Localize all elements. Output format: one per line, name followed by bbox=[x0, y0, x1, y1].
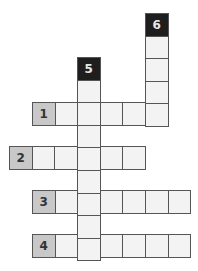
answer-cell[interactable] bbox=[54, 146, 78, 170]
answer-cell[interactable] bbox=[145, 234, 169, 258]
answer-cell[interactable] bbox=[145, 103, 169, 127]
answer-cell[interactable] bbox=[77, 102, 101, 126]
answer-cell[interactable] bbox=[122, 234, 146, 258]
answer-cell[interactable] bbox=[145, 190, 169, 214]
clue-number: 5 bbox=[78, 58, 100, 80]
answer-cell[interactable] bbox=[77, 125, 101, 149]
answer-cell[interactable] bbox=[100, 234, 124, 258]
answer-cell[interactable] bbox=[77, 215, 101, 239]
answer-cell[interactable] bbox=[32, 146, 56, 170]
answer-cell[interactable] bbox=[122, 102, 146, 126]
clue-number: 6 bbox=[146, 14, 168, 36]
answer-cell[interactable] bbox=[100, 190, 124, 214]
clue-label-down-6: 6 bbox=[145, 13, 169, 37]
clue-label-across-2: 2 bbox=[9, 146, 33, 170]
answer-cell[interactable] bbox=[77, 193, 101, 217]
clue-label-across-3: 3 bbox=[32, 190, 56, 214]
clue-label-down-5: 5 bbox=[77, 57, 101, 81]
answer-cell[interactable] bbox=[55, 234, 79, 258]
answer-cell[interactable] bbox=[55, 190, 79, 214]
answer-cell[interactable] bbox=[77, 170, 101, 194]
answer-cell[interactable] bbox=[122, 146, 146, 170]
answer-cell[interactable] bbox=[122, 190, 146, 214]
clue-number: 2 bbox=[10, 147, 32, 169]
answer-cell[interactable] bbox=[100, 102, 124, 126]
answer-cell[interactable] bbox=[145, 36, 169, 60]
answer-cell[interactable] bbox=[168, 190, 192, 214]
clue-label-across-4: 4 bbox=[32, 234, 56, 258]
answer-cell[interactable] bbox=[145, 81, 169, 105]
answer-cell[interactable] bbox=[77, 238, 101, 262]
answer-cell[interactable] bbox=[77, 80, 101, 104]
answer-cell[interactable] bbox=[168, 234, 192, 258]
clue-number: 4 bbox=[33, 235, 55, 257]
clue-number: 3 bbox=[33, 191, 55, 213]
answer-cell[interactable] bbox=[99, 146, 123, 170]
answer-cell[interactable] bbox=[55, 102, 79, 126]
answer-cell[interactable] bbox=[77, 147, 101, 171]
clue-number: 1 bbox=[33, 103, 55, 125]
answer-cell[interactable] bbox=[145, 58, 169, 82]
clue-label-across-1: 1 bbox=[32, 102, 56, 126]
